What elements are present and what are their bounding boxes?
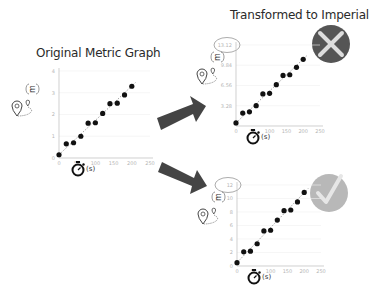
data-point — [274, 82, 279, 87]
y-tick-label: 2 — [230, 249, 233, 255]
data-point — [241, 249, 246, 254]
x-unit-label: (s) — [86, 165, 95, 173]
data-point — [247, 109, 252, 114]
data-point — [234, 260, 239, 265]
x-tick-label: 250 — [315, 128, 325, 134]
x-tick-label: 200 — [299, 268, 309, 274]
svg-text:m: m — [213, 53, 222, 61]
location-path-icon — [12, 100, 32, 116]
data-point — [115, 101, 120, 106]
x-tick-label: 0 — [234, 128, 237, 134]
x-tick-label: 0 — [235, 268, 238, 274]
svg-text:m: m — [28, 85, 37, 93]
svg-text:m: m — [214, 193, 223, 201]
y-tick-label: 13.12 — [218, 42, 232, 48]
incorrect-badge — [312, 25, 350, 63]
data-point — [240, 110, 245, 115]
data-point — [71, 140, 76, 145]
data-point — [260, 91, 265, 96]
y-tick-label: 8 — [230, 209, 233, 215]
data-point — [267, 91, 272, 96]
data-point — [56, 152, 61, 157]
x-unit-label: (s) — [261, 133, 270, 141]
data-point — [64, 141, 69, 146]
y-tick-label: 9.84 — [221, 62, 232, 68]
x-tick-label: 250 — [316, 268, 326, 274]
location-path-icon — [197, 68, 217, 84]
y-tick-label: 1 — [52, 133, 55, 139]
y-tick-label: 0 — [230, 263, 233, 269]
arrow-right-down-icon — [158, 162, 207, 194]
arrow-right-up-icon — [157, 96, 206, 130]
data-point — [100, 111, 105, 116]
data-point — [261, 228, 266, 233]
data-point — [78, 134, 83, 139]
data-point — [295, 199, 300, 204]
meters-icon: m — [212, 192, 225, 202]
y-tick-label: 2 — [52, 111, 55, 117]
data-point — [281, 208, 286, 213]
x-tick-label: 150 — [283, 268, 293, 274]
data-point — [122, 92, 127, 97]
x-unit-label: (s) — [262, 273, 271, 281]
y-tick-label: 4 — [52, 68, 55, 74]
y-tick-label: 6 — [230, 222, 233, 228]
scatter-chart-3: 024681012050100150200250(s)m — [198, 178, 326, 284]
y-tick-label: 10 — [227, 195, 233, 201]
meters-icon: m — [211, 52, 224, 62]
y-tick-label: 4 — [230, 236, 233, 242]
data-point — [294, 65, 299, 70]
scatter-chart-1: 01234050100150200250(s)m — [12, 68, 155, 176]
y-tick-label: 3.28 — [221, 103, 232, 109]
x-tick-label: 250 — [145, 160, 155, 166]
data-point — [248, 249, 253, 254]
data-point — [254, 103, 259, 108]
data-point — [233, 120, 238, 125]
scatter-chart-2: 3.286.569.8413.12050100150200250(s)m — [197, 38, 325, 144]
data-point — [302, 190, 307, 195]
data-point — [280, 73, 285, 78]
x-tick-label: 0 — [57, 160, 60, 166]
correct-badge — [310, 174, 348, 212]
x-tick-label: 150 — [282, 128, 292, 134]
data-point — [129, 84, 134, 89]
data-point — [86, 121, 91, 126]
x-tick-label: 150 — [109, 160, 119, 166]
y-tick-label: 12 — [227, 182, 233, 188]
data-point — [255, 241, 260, 246]
x-tick-label: 200 — [127, 160, 137, 166]
data-point — [275, 218, 280, 223]
x-tick-label: 200 — [298, 128, 308, 134]
y-tick-label: 3 — [52, 90, 55, 96]
y-tick-label: 6.56 — [221, 82, 232, 88]
meters-icon: m — [26, 84, 39, 94]
data-point — [301, 57, 306, 62]
data-point — [93, 120, 98, 125]
data-point — [288, 207, 293, 212]
y-tick-label: 0 — [52, 155, 55, 161]
data-point — [268, 228, 273, 233]
location-path-icon — [198, 208, 218, 224]
data-point — [287, 72, 292, 77]
data-point — [107, 101, 112, 106]
